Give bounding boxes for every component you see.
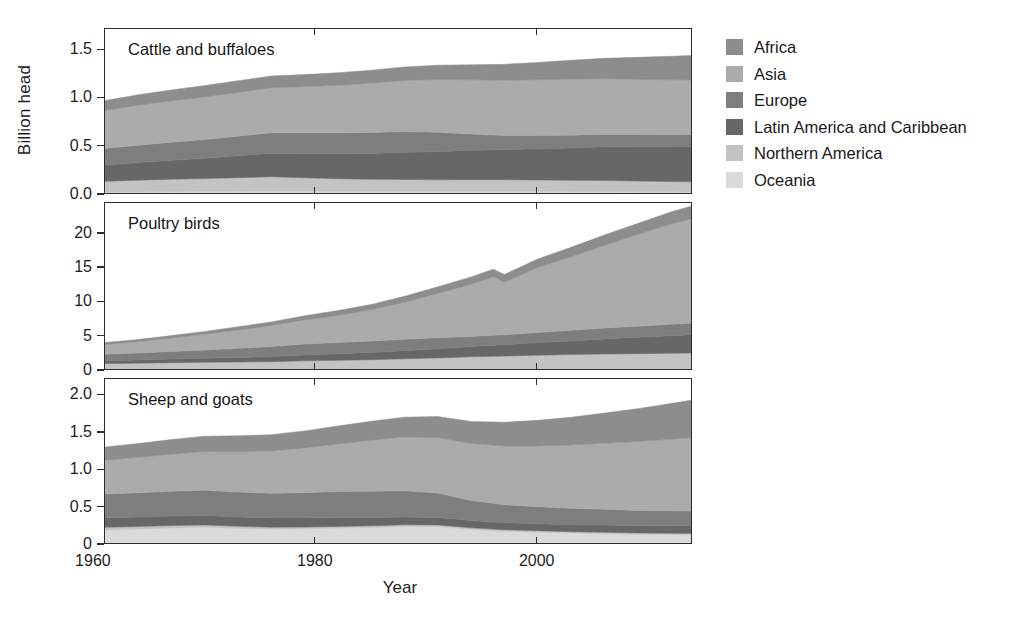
legend-item[interactable]: Northern America — [726, 140, 967, 167]
y-tick-label: 2.0 — [42, 385, 92, 403]
y-tick-mark — [97, 232, 104, 233]
panel-title: Poultry birds — [128, 214, 220, 233]
y-tick-label: 1.5 — [42, 423, 92, 441]
x-tick-mark — [314, 363, 315, 370]
y-tick-label: 1.5 — [42, 40, 92, 58]
chart-panel: Poultry birds — [104, 202, 692, 370]
x-axis-label: Year — [100, 578, 700, 598]
x-tick-mark-top — [536, 28, 537, 35]
y-tick-label: 0.5 — [42, 498, 92, 516]
chart-panel: Sheep and goats — [104, 378, 692, 544]
legend-item-label: Africa — [754, 39, 796, 56]
y-tick-label: 0 — [42, 361, 92, 379]
y-tick-label: 0.0 — [42, 185, 92, 203]
x-tick-label: 1960 — [75, 552, 111, 570]
chart-panel: Cattle and buffaloes — [104, 28, 692, 194]
y-tick-mark — [97, 301, 104, 302]
y-tick-mark — [97, 49, 104, 50]
legend-item-label: Oceania — [754, 172, 815, 189]
y-tick-mark — [97, 394, 104, 395]
y-tick-label: 15 — [42, 258, 92, 276]
legend-item[interactable]: Latin America and Caribbean — [726, 114, 967, 141]
panel-title: Sheep and goats — [128, 390, 253, 409]
x-tick-mark — [314, 187, 315, 194]
legend-item[interactable]: Asia — [726, 61, 967, 88]
y-tick-mark — [97, 266, 104, 267]
legend-swatch-icon — [726, 145, 743, 161]
legend-swatch-icon — [726, 39, 743, 55]
y-tick-mark — [97, 543, 104, 544]
y-tick-mark — [97, 335, 104, 336]
y-tick-mark — [97, 145, 104, 146]
x-tick-mark — [314, 537, 315, 544]
legend-item-label: Northern America — [754, 145, 882, 162]
legend-swatch-icon — [726, 66, 743, 82]
legend-item[interactable]: Africa — [726, 34, 967, 61]
y-axis-label: Billion head — [10, 20, 40, 200]
y-tick-mark — [97, 431, 104, 432]
legend-item[interactable]: Europe — [726, 87, 967, 114]
legend-swatch-icon — [726, 92, 743, 108]
legend-item-label: Asia — [754, 66, 786, 83]
x-tick-mark-top — [536, 202, 537, 209]
x-tick-mark — [536, 537, 537, 544]
legend-item-label: Europe — [754, 92, 807, 109]
x-tick-label: 1980 — [297, 552, 333, 570]
y-tick-mark — [97, 506, 104, 507]
legend-swatch-icon — [726, 119, 743, 135]
y-tick-label: 0.5 — [42, 137, 92, 155]
y-tick-label: 5 — [42, 327, 92, 345]
legend-swatch-icon — [726, 172, 743, 188]
legend: AfricaAsiaEuropeLatin America and Caribb… — [726, 34, 967, 193]
x-tick-mark — [536, 363, 537, 370]
x-tick-mark-top — [314, 378, 315, 385]
x-tick-mark — [536, 187, 537, 194]
panel-title: Cattle and buffaloes — [128, 40, 274, 59]
legend-item-label: Latin America and Caribbean — [754, 119, 967, 136]
y-tick-mark — [97, 193, 104, 194]
x-tick-mark-top — [314, 202, 315, 209]
x-tick-label: 2000 — [519, 552, 555, 570]
y-tick-mark — [97, 369, 104, 370]
figure-root: Billion head Cattle and buffaloesPoultry… — [0, 0, 1028, 632]
y-tick-label: 1.0 — [42, 460, 92, 478]
y-tick-label: 1.0 — [42, 88, 92, 106]
y-tick-label: 10 — [42, 292, 92, 310]
legend-item[interactable]: Oceania — [726, 167, 967, 194]
x-tick-mark-top — [536, 378, 537, 385]
y-tick-label: 20 — [42, 224, 92, 242]
y-axis-label-container: Billion head — [0, 0, 46, 632]
y-tick-mark — [97, 469, 104, 470]
y-tick-label: 0 — [42, 535, 92, 553]
x-tick-mark-top — [314, 28, 315, 35]
y-tick-mark — [97, 97, 104, 98]
